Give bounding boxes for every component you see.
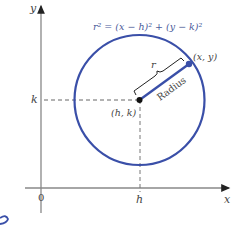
- radius-text: Radius: [155, 74, 188, 102]
- y-axis-label: y: [29, 2, 37, 15]
- center-point: [137, 97, 143, 103]
- circle-equation-diagram: y x 0 h k (h, k) (x, y) r Radius r² = (x…: [0, 0, 235, 225]
- origin-label: 0: [38, 192, 44, 203]
- x-axis-label: x: [224, 193, 231, 206]
- k-label: k: [31, 93, 38, 106]
- r-label: r: [151, 59, 157, 70]
- point-label: (x, y): [193, 51, 217, 62]
- circle-point: [186, 61, 192, 67]
- cropped-figure-number: [0, 216, 8, 224]
- center-label: (h, k): [111, 107, 137, 118]
- h-label: h: [136, 193, 143, 206]
- circle-equation: r² = (x − h)² + (y − k)²: [93, 21, 203, 32]
